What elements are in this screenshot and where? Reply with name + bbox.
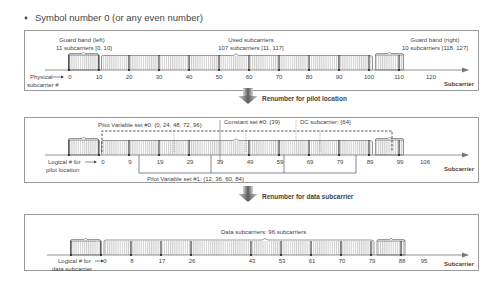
svg-text:60: 60 — [246, 74, 253, 80]
down-arrow-icon — [243, 186, 253, 195]
svg-text:79: 79 — [369, 258, 376, 264]
dc-subcarrier-label: DC subcarrier: {64} — [300, 119, 351, 125]
svg-text:70: 70 — [276, 74, 283, 80]
svg-text:subcarrier #: subcarrier # — [27, 82, 59, 88]
svg-text:Subcarrier: Subcarrier — [444, 261, 475, 267]
svg-text:49: 49 — [247, 159, 254, 165]
pilot-set0-label: Pilot Variable set #0: {0, 24, 48, 72, 9… — [98, 122, 202, 128]
svg-text:61: 61 — [309, 258, 316, 264]
pilot-set1-label: Pilot Variable set #1: {12, 36, 60, 84} — [147, 176, 244, 182]
svg-text:69: 69 — [307, 159, 314, 165]
svg-text:79: 79 — [337, 159, 344, 165]
guard-left-label-1: Guard band (left) — [59, 37, 104, 43]
guard-right-label-2: 10 subcarriers [118, 127] — [402, 45, 468, 51]
svg-text:110: 110 — [394, 74, 404, 80]
svg-text:120: 120 — [426, 74, 437, 80]
svg-text:17: 17 — [159, 258, 166, 264]
svg-text:pilot location: pilot location — [46, 167, 79, 173]
diagram-main: Symbol number 0 (or any even number) Gua… — [0, 0, 501, 289]
svg-text:43: 43 — [249, 258, 256, 264]
svg-text:89: 89 — [367, 159, 374, 165]
svg-text:70: 70 — [339, 258, 346, 264]
svg-text:29: 29 — [187, 159, 194, 165]
svg-text:20: 20 — [126, 74, 133, 80]
pilot-axis-label: Logical # for — [48, 159, 81, 165]
step-data-label: Renumber for data subcarrier — [262, 193, 354, 200]
step-pilot-label: Renumber for pilot location — [262, 95, 347, 103]
used-label-2: 107 subcarriers [11, 117] — [218, 45, 284, 51]
data-subcarriers-label: Data subcarriers: 96 subcarriers — [221, 229, 306, 235]
svg-text:19: 19 — [157, 159, 164, 165]
physical-axis-label: Physical — [30, 74, 52, 80]
svg-text:90: 90 — [336, 74, 343, 80]
svg-text:99: 99 — [397, 159, 404, 165]
section-title: Symbol number 0 (or any even number) — [35, 12, 203, 23]
svg-text:40: 40 — [186, 74, 193, 80]
svg-text:53: 53 — [279, 258, 286, 264]
svg-text:80: 80 — [306, 74, 313, 80]
svg-text:data subcarrier: data subcarrier — [52, 266, 92, 272]
svg-text:Subcarrier: Subcarrier — [444, 166, 475, 172]
guard-right-label-1: Guard band (right) — [410, 37, 459, 43]
svg-text:88: 88 — [399, 258, 406, 264]
svg-text:59: 59 — [277, 159, 284, 165]
svg-text:39: 39 — [217, 159, 224, 165]
constant-set-label: Constant set #0: {39} — [224, 119, 280, 125]
guard-band-left — [69, 55, 99, 70]
used-label-1: Used subcarriers — [228, 37, 273, 43]
data-axis-label: Logical # for — [58, 258, 91, 264]
bullet-icon — [25, 17, 28, 20]
svg-text:100: 100 — [364, 74, 375, 80]
svg-text:50: 50 — [216, 74, 223, 80]
svg-text:10: 10 — [96, 74, 103, 80]
subcarrier-axis-title: Subcarrier — [444, 81, 475, 87]
guard-left-label-2: 11 subcarriers [0, 10] — [56, 45, 112, 51]
used-subcarriers — [102, 56, 373, 70]
svg-text:26: 26 — [189, 258, 196, 264]
svg-text:106: 106 — [420, 159, 431, 165]
svg-text:95: 95 — [421, 258, 428, 264]
down-arrow-icon — [243, 88, 253, 97]
svg-text:30: 30 — [156, 74, 163, 80]
